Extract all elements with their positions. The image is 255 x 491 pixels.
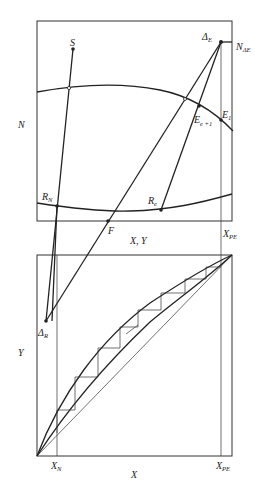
point-delta-e (219, 40, 223, 44)
label-delta-e: ΔE (201, 31, 212, 43)
point-r-n (55, 204, 59, 208)
label-e1: E1 (221, 109, 231, 121)
label-n-axis: N (17, 119, 26, 130)
extraction-diagram: S ΔE NΔE Ee +1 E1 N RN Re F X, Y XPE ΔR … (0, 0, 255, 491)
point-mix-extract (184, 98, 187, 101)
label-x-pe-bottom: XPE (215, 460, 230, 472)
label-xy-axis: X, Y (129, 235, 148, 246)
label-r-e: Re (147, 195, 157, 207)
label-s: S (70, 37, 75, 48)
label-n-delta-e: NΔE (235, 41, 250, 53)
arrow-mark (126, 325, 138, 334)
label-y-axis: Y (18, 347, 25, 358)
label-x-axis: X (130, 469, 138, 480)
point-r-e (159, 208, 163, 212)
diagonal-line (37, 255, 232, 456)
point-f (106, 219, 110, 223)
point-e-e1 (197, 104, 201, 108)
label-f: F (107, 225, 115, 236)
label-e-e1: Ee +1 (193, 114, 212, 127)
label-x-pe-top: XPE (222, 228, 237, 240)
label-r-n: RN (41, 191, 53, 203)
label-delta-r: ΔR (37, 327, 48, 339)
raffinate-curve (37, 194, 232, 211)
label-x-n: XN (50, 460, 62, 472)
point-delta-r (44, 319, 48, 323)
point-s-mix (67, 86, 70, 89)
